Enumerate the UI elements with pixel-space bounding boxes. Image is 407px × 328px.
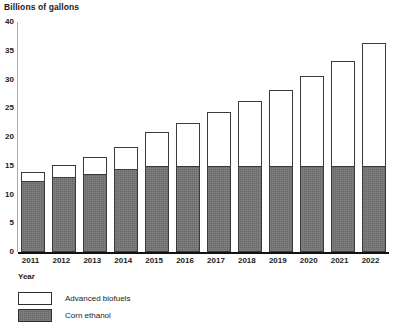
y-tick-label: 25 [5,104,14,112]
bar-segment-corn-ethanol[interactable] [331,166,355,252]
bar-segment-advanced-biofuels[interactable] [83,157,107,175]
y-tick-label: 5 [10,219,14,227]
y-tick-label: 40 [5,18,14,26]
legend-label: Advanced biofuels [65,294,130,303]
x-axis-line [18,252,389,254]
y-tick-label: 15 [5,162,14,170]
y-tick-label: 0 [10,248,14,256]
bar-segment-corn-ethanol[interactable] [238,166,262,252]
bar-segment-corn-ethanol[interactable] [269,166,293,252]
bar-segment-corn-ethanol[interactable] [52,177,76,252]
x-tick-label: 2015 [139,256,169,265]
bar-segment-advanced-biofuels[interactable] [269,90,293,167]
x-tick-label: 2020 [294,256,324,265]
bars-layer [18,22,389,252]
y-axis-tick-labels: 0510152025303540 [0,22,14,252]
chart-title: Billions of gallons [4,2,79,12]
x-axis-tick-labels: 2011201220132014201520162017201820192020… [18,256,389,270]
bar-segment-corn-ethanol[interactable] [362,166,386,252]
x-tick-label: 2017 [201,256,231,265]
bar-segment-advanced-biofuels[interactable] [52,165,76,179]
legend-item: Corn ethanol [18,307,248,324]
bar-segment-advanced-biofuels[interactable] [207,112,231,167]
bar-segment-corn-ethanol[interactable] [207,166,231,252]
bar-segment-corn-ethanol[interactable] [21,181,45,252]
x-tick-label: 2019 [263,256,293,265]
bar-segment-advanced-biofuels[interactable] [145,132,169,167]
x-tick-label: 2016 [170,256,200,265]
legend-item: Advanced biofuels [18,290,248,307]
x-axis-title: Year [18,272,35,281]
bar-segment-corn-ethanol[interactable] [145,166,169,252]
bar-segment-advanced-biofuels[interactable] [21,172,45,182]
bar-segment-corn-ethanol[interactable] [300,166,324,252]
bar-segment-advanced-biofuels[interactable] [331,61,355,167]
legend-swatch-white [18,292,52,305]
x-tick-label: 2013 [77,256,107,265]
bar-segment-advanced-biofuels[interactable] [300,76,324,167]
y-tick-label: 30 [5,76,14,84]
biofuels-stacked-bar-chart: Billions of gallons 0510152025303540 201… [0,0,407,328]
y-tick-label: 35 [5,47,14,55]
chart-legend: Advanced biofuelsCorn ethanol [18,290,248,324]
y-tick-label: 10 [5,191,14,199]
legend-swatch-gray [18,309,52,322]
bar-segment-advanced-biofuels[interactable] [114,147,138,169]
legend-label: Corn ethanol [65,311,111,320]
bar-segment-corn-ethanol[interactable] [114,169,138,252]
bar-segment-advanced-biofuels[interactable] [176,123,200,167]
bar-segment-corn-ethanol[interactable] [176,166,200,252]
x-tick-label: 2021 [325,256,355,265]
x-tick-label: 2022 [356,256,386,265]
bar-segment-advanced-biofuels[interactable] [238,101,262,167]
bar-segment-advanced-biofuels[interactable] [362,43,386,167]
bar-segment-corn-ethanol[interactable] [83,174,107,252]
y-tick-label: 20 [5,133,14,141]
x-tick-label: 2014 [108,256,138,265]
x-tick-label: 2018 [232,256,262,265]
x-tick-label: 2011 [15,256,45,265]
x-tick-label: 2012 [46,256,76,265]
